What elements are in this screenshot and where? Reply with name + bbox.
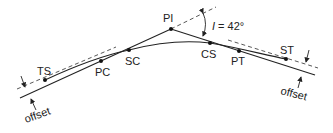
point-ts <box>43 78 47 82</box>
label-cs: CS <box>201 48 216 60</box>
offset-label-right: offset <box>280 84 309 102</box>
label-pt: PT <box>231 55 245 67</box>
point-sc <box>127 48 131 52</box>
spiral-curve-diagram: TS PC SC PI CS PT ST I = 42° offset offs… <box>0 0 333 133</box>
point-st <box>284 57 288 61</box>
angle-label: I = 42° <box>212 20 244 32</box>
back-tangent-line <box>20 29 171 98</box>
right-offset-arrow-bottom <box>298 77 301 88</box>
label-ts: TS <box>37 65 51 77</box>
left-offset-arrow-top <box>21 76 25 87</box>
label-st: ST <box>280 44 294 56</box>
label-pi: PI <box>163 12 173 24</box>
offset-label-left: offset <box>23 104 52 124</box>
point-pc <box>99 59 103 63</box>
transition-curve <box>45 42 286 80</box>
right-offset-arrow-top <box>306 50 309 62</box>
point-pi <box>169 27 173 31</box>
deflection-angle-arrow <box>203 13 206 36</box>
angle-value: = 42° <box>215 20 244 32</box>
point-pt <box>237 49 241 53</box>
point-cs <box>208 41 212 45</box>
tangent-extension-dashed <box>171 7 216 29</box>
label-pc: PC <box>95 66 110 78</box>
label-sc: SC <box>125 55 140 67</box>
diagram-svg: TS PC SC PI CS PT ST I = 42° offset offs… <box>0 0 333 133</box>
